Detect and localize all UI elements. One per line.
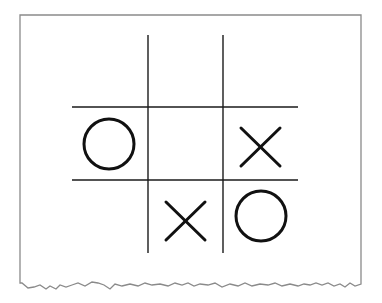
- paper-sheet: [20, 15, 361, 289]
- tic-tac-toe-diagram: [0, 0, 382, 303]
